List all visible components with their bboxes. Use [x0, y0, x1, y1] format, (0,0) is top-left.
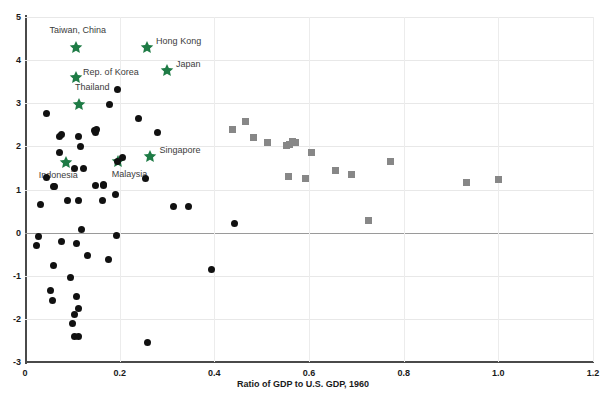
circle-data-point — [69, 320, 76, 327]
x-axis-tick-label: 0.2 — [113, 368, 126, 378]
square-data-point — [332, 167, 339, 174]
square-data-point — [302, 175, 309, 182]
circle-data-point — [77, 143, 84, 150]
circle-data-point — [99, 197, 106, 204]
circle-data-point — [73, 293, 80, 300]
y-axis-tick-label: -1 — [0, 271, 21, 281]
square-data-point — [242, 118, 249, 125]
data-point-label: Thailand — [75, 82, 110, 92]
x-axis-tick-label: 0.4 — [208, 368, 221, 378]
circle-data-point — [50, 262, 57, 269]
square-data-point — [348, 171, 355, 178]
circle-data-point — [37, 201, 44, 208]
x-axis-tick-label: 0.8 — [397, 368, 410, 378]
circle-data-point — [170, 203, 177, 210]
scatter-chart: Taiwan, ChinaHong KongJapanRep. of Korea… — [0, 0, 606, 398]
gridline-vertical — [498, 17, 499, 362]
circle-data-point — [112, 191, 119, 198]
circle-data-point — [231, 220, 238, 227]
y-axis-tick-label: 2 — [0, 141, 21, 151]
circle-data-point — [33, 242, 40, 249]
y-axis-tick-label: 3 — [0, 98, 21, 108]
circle-data-point — [58, 238, 65, 245]
y-axis-tick-label: 5 — [0, 12, 21, 22]
square-data-point — [292, 139, 299, 146]
circle-data-point — [49, 297, 56, 304]
circle-data-point — [75, 133, 82, 140]
x-axis-tick-label: 1.2 — [587, 368, 600, 378]
circle-data-point — [73, 240, 80, 247]
circle-data-point — [67, 274, 74, 281]
circle-data-point — [114, 86, 121, 93]
square-data-point — [308, 149, 315, 156]
square-data-point — [387, 158, 394, 165]
x-axis-tick-label: 0 — [22, 368, 27, 378]
square-data-point — [495, 176, 502, 183]
x-axis-label: Ratio of GDP to U.S. GDP, 1960 — [0, 379, 606, 389]
circle-data-point — [142, 175, 149, 182]
circle-data-point — [47, 287, 54, 294]
circle-data-point — [144, 339, 151, 346]
y-axis-tick-label: -3 — [0, 357, 21, 367]
gridline-vertical — [309, 17, 310, 362]
star-data-point — [69, 40, 83, 54]
square-data-point — [285, 173, 292, 180]
gridline-vertical — [214, 17, 215, 362]
circle-data-point — [78, 226, 85, 233]
circle-data-point — [185, 203, 192, 210]
circle-data-point — [75, 197, 82, 204]
star-data-point — [143, 149, 157, 163]
circle-data-point — [43, 110, 50, 117]
data-point-label: Japan — [176, 59, 201, 69]
y-axis-tick-label: 4 — [0, 55, 21, 65]
circle-data-point — [56, 149, 63, 156]
data-point-label: Taiwan, China — [50, 25, 107, 35]
circle-data-point — [75, 333, 82, 340]
circle-data-point — [80, 165, 87, 172]
star-data-point — [160, 63, 174, 77]
circle-data-point — [106, 101, 113, 108]
circle-data-point — [93, 126, 100, 133]
x-axis-tick-label: 0.6 — [303, 368, 316, 378]
y-axis-tick-label: -2 — [0, 314, 21, 324]
star-data-point — [72, 97, 86, 111]
circle-data-point — [119, 154, 126, 161]
y-axis-tick-label: 1 — [0, 185, 21, 195]
circle-data-point — [35, 233, 42, 240]
circle-data-point — [105, 256, 112, 263]
square-data-point — [229, 126, 236, 133]
square-data-point — [365, 217, 372, 224]
plot-area: Taiwan, ChinaHong KongJapanRep. of Korea… — [25, 17, 593, 362]
square-data-point — [463, 179, 470, 186]
square-data-point — [250, 134, 257, 141]
circle-data-point — [135, 115, 142, 122]
data-point-label: Hong Kong — [156, 36, 201, 46]
star-data-point — [140, 40, 154, 54]
circle-data-point — [58, 131, 65, 138]
circle-data-point — [71, 311, 78, 318]
circle-data-point — [64, 197, 71, 204]
circle-data-point — [154, 129, 161, 136]
gridline-vertical — [404, 17, 405, 362]
data-point-label: Rep. of Korea — [83, 67, 139, 77]
circle-data-point — [100, 182, 107, 189]
circle-data-point — [92, 182, 99, 189]
gridline-vertical — [593, 17, 594, 362]
circle-data-point — [84, 252, 91, 259]
circle-data-point — [113, 232, 120, 239]
data-point-label: Singapore — [159, 145, 200, 155]
y-axis-tick-label: 0 — [0, 228, 21, 238]
square-data-point — [264, 139, 271, 146]
x-axis-tick-label: 1.0 — [492, 368, 505, 378]
